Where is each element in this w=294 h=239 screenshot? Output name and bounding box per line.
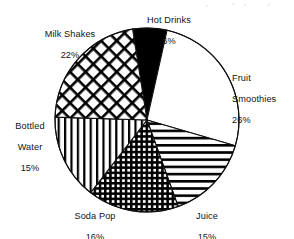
pie-label-fruit-smoothies-name-line2: Smoothies xyxy=(232,94,294,105)
scan-artifact-speck xyxy=(268,3,270,6)
pie-label-milk-shakes-value: 22% xyxy=(30,50,110,61)
pie-label-juice-value: 15% xyxy=(178,232,236,239)
pie-label-fruit-smoothies-name-line1: Fruit xyxy=(232,73,294,84)
pie-chart: Hot Drinks 6% Fruit Smoothies 26% Juice … xyxy=(0,0,294,239)
pie-label-milk-shakes: Milk Shakes 22% xyxy=(30,18,110,71)
pie-label-soda-pop-value: 16% xyxy=(60,232,130,239)
pie-label-fruit-smoothies-value: 26% xyxy=(232,115,294,126)
pie-label-fruit-smoothies: Fruit Smoothies 26% xyxy=(232,62,294,136)
pie-label-bottled-water-name-line2: Water xyxy=(2,142,58,153)
pie-label-juice-name: Juice xyxy=(178,211,236,222)
pie-label-soda-pop: Soda Pop 16% xyxy=(60,200,130,239)
pie-label-hot-drinks: Hot Drinks 6% xyxy=(130,4,208,57)
scan-artifact-speck xyxy=(206,5,208,7)
scan-artifact-speck xyxy=(232,3,235,5)
pie-label-juice: Juice 15% xyxy=(178,200,236,239)
pie-label-milk-shakes-name: Milk Shakes xyxy=(30,29,110,40)
pie-label-hot-drinks-value: 6% xyxy=(130,36,208,47)
scan-artifact-speck xyxy=(244,4,246,6)
pie-label-bottled-water-value: 15% xyxy=(2,163,58,174)
pie-label-soda-pop-name: Soda Pop xyxy=(60,211,130,222)
pie-label-hot-drinks-name: Hot Drinks xyxy=(130,15,208,26)
pie-label-bottled-water: Bottled Water 15% xyxy=(2,110,58,184)
pie-label-bottled-water-name-line1: Bottled xyxy=(2,121,58,132)
